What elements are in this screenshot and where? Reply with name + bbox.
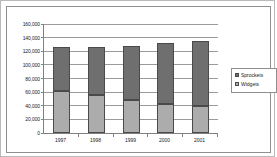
x-axis-tick <box>217 134 218 137</box>
x-axis-tick-label: 1997 <box>43 137 78 144</box>
legend-swatch-icon <box>235 82 239 86</box>
y-axis-tick-label: 160,000 <box>23 21 40 27</box>
y-axis-tick <box>41 133 44 134</box>
bar-segment-widgets[interactable] <box>192 106 209 133</box>
bar-segment-sprockets[interactable] <box>88 47 105 95</box>
y-axis-tick-label: 120,000 <box>23 48 40 54</box>
y-axis-labels: 160,000140,000120,000100,00080,00060,000… <box>7 24 40 134</box>
x-axis-tick-label: 1999 <box>113 137 148 144</box>
y-axis-tick <box>41 37 44 38</box>
chart-legend: SprocketsWidgets <box>231 68 275 93</box>
y-axis-tick <box>41 64 44 65</box>
chart-inner-frame: 160,000140,000120,000100,00080,00060,000… <box>6 6 271 153</box>
bar-segment-sprockets[interactable] <box>157 43 174 104</box>
chart-outer-frame: 160,000140,000120,000100,00080,00060,000… <box>0 0 275 157</box>
y-axis-tick-label: 40,000 <box>25 103 40 109</box>
legend-swatch-icon <box>235 73 239 77</box>
bar-group[interactable] <box>53 24 70 133</box>
legend-item-label: Widgets <box>241 81 259 87</box>
y-axis-tick <box>41 105 44 106</box>
y-axis-tick <box>41 24 44 25</box>
y-axis-tick <box>41 51 44 52</box>
bar-segment-sprockets[interactable] <box>192 41 209 106</box>
bar-segment-widgets[interactable] <box>88 95 105 133</box>
x-axis-tick-label: 2000 <box>147 137 182 144</box>
bar-segment-widgets[interactable] <box>123 100 140 133</box>
y-axis-tick <box>41 78 44 79</box>
plot-area <box>43 24 218 134</box>
y-axis-tick-label: 80,000 <box>25 76 40 82</box>
bar-segment-sprockets[interactable] <box>123 46 140 100</box>
y-axis-tick <box>41 92 44 93</box>
y-axis-tick-label: 100,000 <box>23 62 40 68</box>
y-axis-tick <box>41 119 44 120</box>
y-axis-tick-label: 0 <box>37 130 40 136</box>
x-axis-tick-label: 2001 <box>182 137 217 144</box>
bar-group[interactable] <box>123 24 140 133</box>
x-axis-tick-label: 1998 <box>78 137 113 144</box>
x-axis-labels: 19971998199920002001 <box>43 137 218 147</box>
legend-item[interactable]: Widgets <box>235 80 274 88</box>
bar-group[interactable] <box>88 24 105 133</box>
bar-segment-widgets[interactable] <box>53 91 70 133</box>
y-axis-tick-label: 60,000 <box>25 89 40 95</box>
bar-segment-widgets[interactable] <box>157 104 174 133</box>
bar-group[interactable] <box>157 24 174 133</box>
bar-group[interactable] <box>192 24 209 133</box>
legend-item-label: Sprockets <box>241 72 263 78</box>
y-axis-tick-label: 140,000 <box>23 35 40 41</box>
y-axis-tick-label: 20,000 <box>25 116 40 122</box>
legend-item[interactable]: Sprockets <box>235 71 274 79</box>
bar-segment-sprockets[interactable] <box>53 47 70 91</box>
